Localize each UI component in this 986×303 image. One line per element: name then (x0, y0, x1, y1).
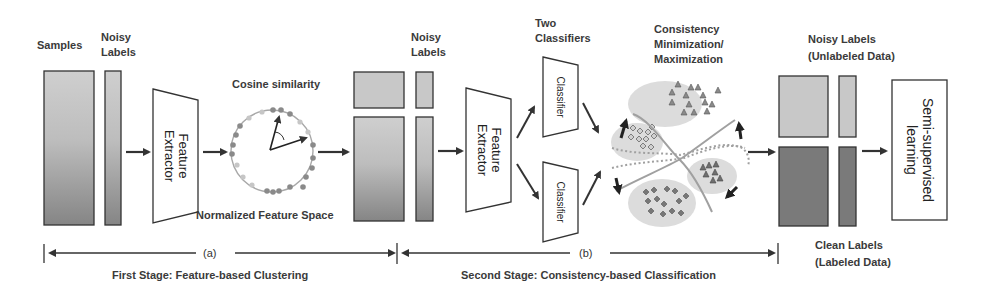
decision-space (611, 81, 749, 227)
noisy-labels-block (105, 71, 121, 225)
ssl-line2: learning (904, 125, 920, 175)
two-classifiers-line2: Classifiers (535, 32, 591, 44)
stage2-samples-top-block (354, 72, 404, 108)
consistency-line3: Maximization (654, 53, 723, 65)
stage2-noisy-labels-line2: Labels (411, 46, 446, 58)
output-group: Noisy Labels (Unlabeled Data) Semi-super… (779, 33, 947, 268)
samples-block (44, 71, 94, 225)
stage2-samples-bottom-block (354, 117, 404, 221)
noisy-unlabeled-line1: Noisy Labels (808, 33, 876, 45)
ssl-line1: Semi-supervised (920, 98, 936, 202)
feature-extractor-1-line2: Extractor (162, 130, 177, 183)
feature-extractor-2-line2: Extractor (475, 124, 490, 177)
feature-extractor-1-line1: Feature (176, 134, 191, 179)
stage1-group: Samples Noisy Labels Feature Extractor C… (37, 31, 348, 225)
two-classifiers-line1: Two (535, 17, 556, 29)
stage2-group: Noisy Labels Feature Extractor Two Class… (354, 17, 774, 242)
stage2-labels-bottom-block (416, 117, 433, 221)
classifier-top-label: Classifier (555, 76, 566, 118)
arrow-to-classifier-bottom (517, 164, 538, 198)
stage-spans: (a) (b) First Stage: Feature-based Clust… (44, 243, 778, 281)
normalized-feature-space-label: Normalized Feature Space (196, 209, 334, 221)
consistency-line1: Consistency (654, 23, 720, 35)
labeled-labels-block (839, 147, 856, 226)
arrow-maximize-up-right (739, 124, 741, 139)
arrow-classifier-top-out (583, 103, 598, 132)
unlabeled-labels-block (839, 76, 856, 137)
stage2-caption: Second Stage: Consistency-based Classifi… (461, 269, 716, 281)
arrow-classifier-bottom-out (583, 172, 600, 205)
cosine-similarity-label: Cosine similarity (232, 78, 321, 90)
stage2-marker: (b) (579, 247, 592, 259)
clean-labeled-line2: (Labeled Data) (815, 256, 891, 268)
feature-extractor-2-line1: Feature (489, 128, 504, 173)
noisy-unlabeled-line2: (Unlabeled Data) (808, 50, 895, 62)
consistency-line2: Minimization/ (654, 38, 724, 50)
stage1-marker: (a) (203, 247, 216, 259)
noisy-labels-label-line1: Noisy (101, 31, 132, 43)
stage2-labels-top-block (416, 72, 433, 108)
labeled-samples-block (779, 147, 828, 226)
diagram-canvas: Samples Noisy Labels Feature Extractor C… (0, 0, 986, 303)
clean-labeled-line1: Clean Labels (815, 239, 883, 251)
unlabeled-samples-block (779, 76, 828, 137)
classifier-bottom-label: Classifier (555, 181, 566, 223)
noisy-labels-label-line2: Labels (101, 46, 136, 58)
normalized-feature-sphere (229, 107, 316, 195)
stage1-caption: First Stage: Feature-based Clustering (112, 269, 308, 281)
samples-label: Samples (37, 39, 82, 51)
arrow-to-classifier-top (517, 107, 534, 138)
stage2-noisy-labels-line1: Noisy (411, 31, 442, 43)
